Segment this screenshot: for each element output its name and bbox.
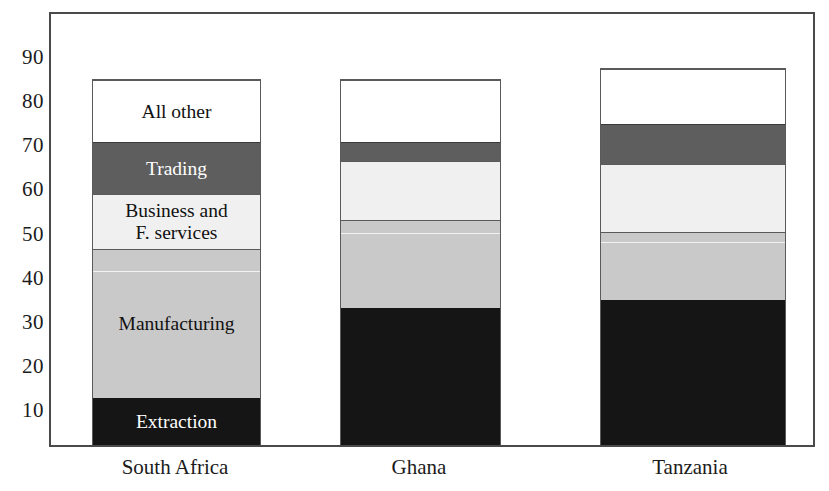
stacked-bar-chart: 90 80 70 60 50 40 30 20 10 All other Tra… xyxy=(0,0,829,491)
y-tick-label-70: 70 xyxy=(0,133,44,158)
segment-trading-tanzania[interactable] xyxy=(601,124,785,164)
x-category-label-south-africa: South Africa xyxy=(122,455,229,480)
plot-area: All other Trading Business and F. servic… xyxy=(49,12,815,447)
segment-business-south-africa[interactable]: Business and F. services xyxy=(93,194,260,249)
segment-trading-ghana[interactable] xyxy=(341,142,500,161)
segment-business-ghana[interactable] xyxy=(341,161,500,220)
x-category-label-tanzania: Tanzania xyxy=(652,455,727,480)
y-tick-label-60: 60 xyxy=(0,177,44,202)
x-category-label-ghana: Ghana xyxy=(392,455,447,480)
y-tick-label-40: 40 xyxy=(0,266,44,291)
segment-label-extraction: Extraction xyxy=(132,411,221,433)
segment-label-manufacturing: Manufacturing xyxy=(115,313,239,335)
segment-manufacturing-tanzania[interactable] xyxy=(601,232,785,300)
y-tick-label-30: 30 xyxy=(0,310,44,335)
y-tick-label-20: 20 xyxy=(0,354,44,379)
segment-trading-south-africa[interactable]: Trading xyxy=(93,142,260,194)
segment-extraction-south-africa[interactable]: Extraction xyxy=(93,398,260,445)
segment-extraction-ghana[interactable] xyxy=(341,308,500,445)
bar-south-africa[interactable]: All other Trading Business and F. servic… xyxy=(92,79,261,445)
y-tick-label-50: 50 xyxy=(0,222,44,247)
segment-manufacturing-south-africa[interactable]: Manufacturing xyxy=(93,249,260,398)
segment-business-tanzania[interactable] xyxy=(601,164,785,232)
segment-extraction-tanzania[interactable] xyxy=(601,300,785,445)
y-tick-label-80: 80 xyxy=(0,89,44,114)
y-tick-label-90: 90 xyxy=(0,45,44,70)
y-axis: 90 80 70 60 50 40 30 20 10 xyxy=(0,0,44,491)
bar-tanzania[interactable] xyxy=(600,68,786,445)
bar-ghana[interactable] xyxy=(340,79,501,445)
segment-label-trading: Trading xyxy=(142,158,211,180)
segment-label-all-other: All other xyxy=(138,101,216,123)
segment-all-other-ghana[interactable] xyxy=(341,80,500,142)
segment-manufacturing-ghana[interactable] xyxy=(341,220,500,308)
segment-label-business: Business and F. services xyxy=(121,200,231,244)
y-tick-label-10: 10 xyxy=(0,398,44,423)
segment-all-other-south-africa[interactable]: All other xyxy=(93,80,260,142)
segment-all-other-tanzania[interactable] xyxy=(601,69,785,124)
